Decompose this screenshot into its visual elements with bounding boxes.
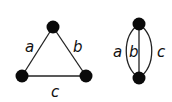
label-a: a <box>113 43 122 61</box>
triangle-graph: a b c <box>16 21 93 102</box>
node-top <box>133 18 146 31</box>
node-left <box>16 70 29 83</box>
node-top <box>47 21 60 34</box>
edge-c <box>139 24 152 78</box>
label-c: c <box>51 83 60 101</box>
node-right <box>80 70 93 83</box>
node-bottom <box>133 72 146 85</box>
label-a: a <box>25 38 34 56</box>
label-c: c <box>157 43 166 61</box>
label-b: b <box>129 43 139 61</box>
graph-diagram: a b c a b c <box>0 0 172 101</box>
multigraph: a b c <box>113 18 166 85</box>
label-b: b <box>73 38 83 56</box>
